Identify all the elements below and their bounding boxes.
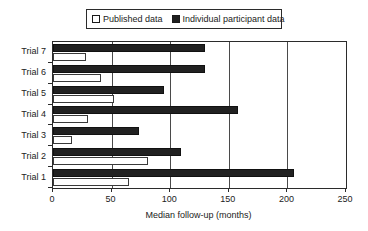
bars-layer — [53, 42, 346, 188]
y-axis: Trial 7Trial 6Trial 5Trial 4Trial 3Trial… — [0, 41, 50, 187]
y-tick-label: Trial 2 — [21, 151, 46, 161]
bar-individual-participant — [53, 169, 294, 177]
chart-figure: Published data Individual participant da… — [0, 0, 368, 231]
x-tick-mark — [286, 188, 287, 192]
bar-individual-participant — [53, 65, 205, 73]
bar-published — [53, 136, 72, 144]
trial-group — [53, 105, 346, 126]
x-tick-label: 150 — [220, 194, 235, 204]
y-tick-label: Trial 3 — [21, 130, 46, 140]
x-tick-label: 50 — [106, 194, 116, 204]
y-tick-label: Trial 6 — [21, 67, 46, 77]
x-tick-label: 250 — [337, 194, 352, 204]
x-tick-label: 100 — [162, 194, 177, 204]
x-tick-mark — [52, 188, 53, 192]
trial-group — [53, 146, 346, 167]
bar-published — [53, 115, 88, 123]
x-tick-mark — [169, 188, 170, 192]
bar-individual-participant — [53, 44, 205, 52]
x-tick-mark — [111, 188, 112, 192]
x-axis-title: Median follow-up (months) — [52, 210, 345, 220]
x-tick-mark — [345, 188, 346, 192]
bar-individual-participant — [53, 106, 238, 114]
trial-group — [53, 167, 346, 188]
bar-individual-participant — [53, 86, 164, 94]
bar-published — [53, 178, 129, 186]
bar-individual-participant — [53, 148, 181, 156]
trial-group — [53, 42, 346, 63]
y-tick-label: Trial 7 — [21, 46, 46, 56]
chart-legend: Published data Individual participant da… — [86, 9, 282, 29]
trial-group — [53, 84, 346, 105]
y-tick-label: Trial 4 — [21, 109, 46, 119]
x-tick-mark — [228, 188, 229, 192]
legend-item-individual-participant: Individual participant data — [172, 14, 285, 24]
bar-published — [53, 74, 101, 82]
plot-area — [52, 41, 347, 189]
y-tick-label: Trial 1 — [21, 172, 46, 182]
bar-published — [53, 95, 114, 103]
trial-group — [53, 125, 346, 146]
legend-label-published: Published data — [103, 14, 163, 24]
legend-label-individual-participant: Individual participant data — [183, 14, 285, 24]
x-tick-label: 200 — [279, 194, 294, 204]
bar-published — [53, 157, 148, 165]
x-tick-label: 0 — [49, 194, 54, 204]
x-axis: Median follow-up (months) 05010015020025… — [52, 188, 345, 228]
bar-published — [53, 53, 86, 61]
legend-item-published: Published data — [92, 14, 163, 24]
bar-individual-participant — [53, 127, 139, 135]
y-tick-label: Trial 5 — [21, 88, 46, 98]
individual-participant-swatch-icon — [172, 15, 180, 23]
published-swatch-icon — [92, 15, 100, 23]
trial-group — [53, 63, 346, 84]
